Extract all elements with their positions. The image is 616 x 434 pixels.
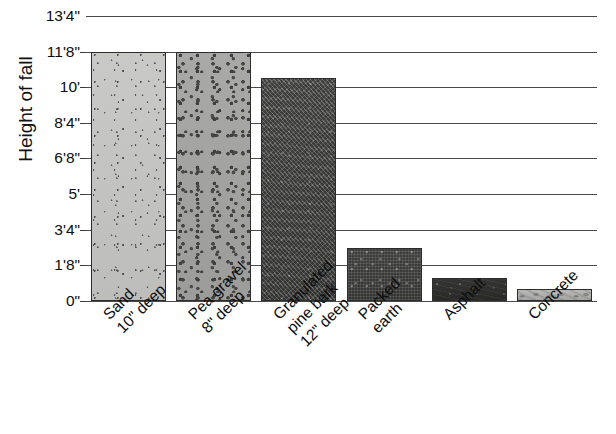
bar-sand (91, 52, 166, 301)
y-axis-tick-label: 10' (2, 78, 80, 96)
bar-chart: Height of fall 13'4"11'8"10'8'4"6'8"5'3'… (0, 0, 616, 434)
gridline (86, 16, 597, 17)
y-axis-tick-label: 3'4" (2, 221, 80, 239)
y-axis-tick-label: 8'4" (2, 114, 80, 132)
y-axis-tick-label: 11'8" (2, 43, 80, 61)
plot-area (86, 16, 597, 301)
y-axis-tick-label: 1'8" (2, 256, 80, 274)
y-axis-tick-label: 5' (2, 185, 80, 203)
y-axis-tick-labels: 13'4"11'8"10'8'4"6'8"5'3'4"1'8"0" (0, 16, 80, 301)
y-axis-tick-label: 13'4" (2, 7, 80, 25)
y-axis-tick-label: 0" (2, 292, 80, 310)
y-axis-tick-label: 6'8" (2, 149, 80, 167)
